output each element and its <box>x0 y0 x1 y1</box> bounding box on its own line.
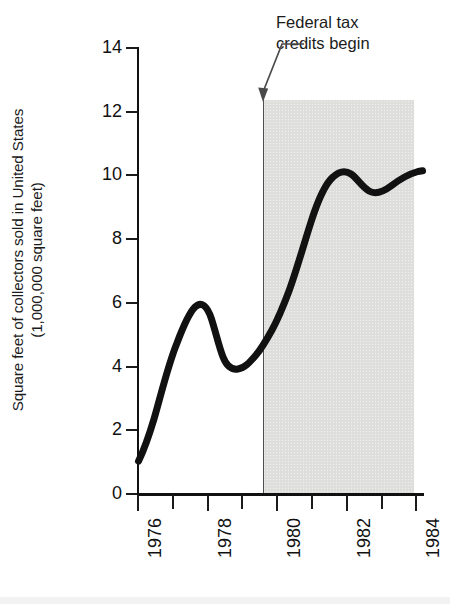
y-tick-0 <box>126 493 137 495</box>
x-tick-1980 <box>276 495 278 511</box>
y-axis-title: Square feet of collectors sold in United… <box>0 0 62 520</box>
x-tick-1977 <box>172 495 174 509</box>
data-series-line <box>137 47 424 497</box>
y-tick-12 <box>126 111 137 113</box>
y-tick-label-0: 0 <box>112 483 122 504</box>
y-axis-title-line-2: (1,000,000 square feet) <box>28 182 45 338</box>
y-axis-title-line-1: Square feet of collectors sold in United… <box>9 109 26 412</box>
footer-strip <box>0 597 450 604</box>
y-tick-label-12: 12 <box>102 100 122 121</box>
y-tick-8 <box>126 238 137 240</box>
y-tick-4 <box>126 366 137 368</box>
x-tick-label-1978: 1978 <box>215 518 236 558</box>
y-tick-14 <box>126 47 137 49</box>
x-tick-label-1976: 1976 <box>145 518 166 558</box>
y-tick-label-10: 10 <box>102 164 122 185</box>
y-tick-2 <box>126 429 137 431</box>
x-tick-1982 <box>346 495 348 511</box>
x-tick-1981 <box>311 495 313 509</box>
y-tick-label-6: 6 <box>112 291 122 312</box>
y-tick-label-2: 2 <box>112 419 122 440</box>
x-tick-1984 <box>415 495 417 511</box>
y-tick-label-14: 14 <box>102 37 122 58</box>
x-tick-label-1980: 1980 <box>284 518 305 558</box>
y-tick-6 <box>126 302 137 304</box>
y-tick-10 <box>126 174 137 176</box>
x-tick-label-1982: 1982 <box>354 518 375 558</box>
x-tick-1979 <box>241 495 243 509</box>
x-tick-1983 <box>381 495 383 509</box>
x-tick-1978 <box>207 495 209 511</box>
chart-figure: Square feet of collectors sold in United… <box>0 0 450 604</box>
x-tick-label-1984: 1984 <box>423 518 444 558</box>
annotation-line-1: Federal tax <box>276 12 446 33</box>
y-tick-label-8: 8 <box>112 228 122 249</box>
plot-area: 0 2 4 6 8 10 12 14 1976 1978 1980 1982 1… <box>137 47 422 493</box>
y-tick-label-4: 4 <box>112 355 122 376</box>
x-tick-1976 <box>137 495 139 511</box>
